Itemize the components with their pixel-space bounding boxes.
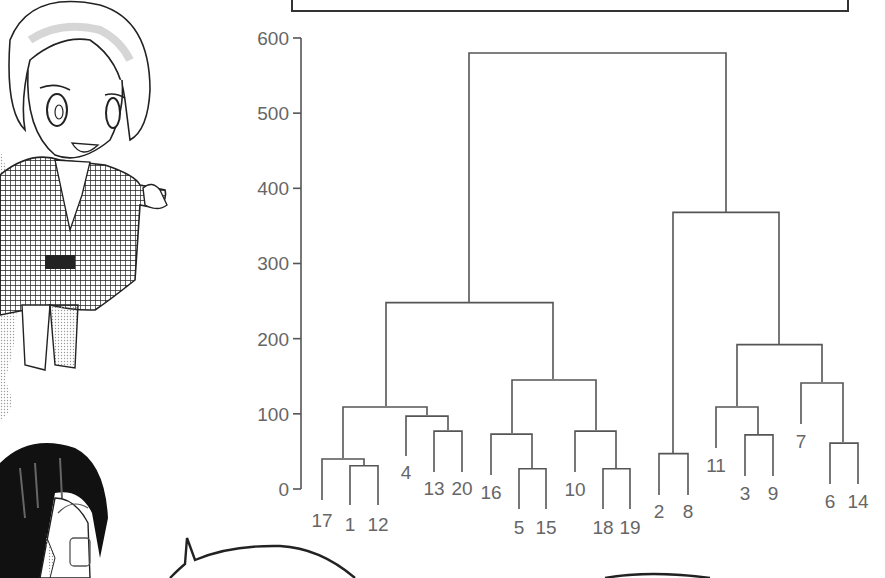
leaf-label: 4 — [401, 462, 412, 483]
leaf-label: 9 — [768, 483, 779, 504]
leaf-label: 5 — [514, 517, 525, 538]
dendrogram-link — [575, 431, 616, 472]
leaf-label: 12 — [367, 514, 388, 535]
leaf-label: 15 — [535, 517, 556, 538]
leaf-labels: 1711241320165151018192811397614 — [311, 431, 869, 538]
leaf-label: 19 — [619, 517, 640, 538]
manga-page: 0100200300400500600 17112413201651510181… — [0, 0, 885, 578]
y-axis: 0100200300400500600 — [257, 28, 301, 500]
dendrogram-branches — [322, 53, 858, 509]
leaf-label: 14 — [847, 491, 869, 512]
dendrogram-link — [801, 383, 843, 442]
dendrogram-link — [603, 469, 630, 509]
dendrogram-link — [716, 407, 758, 448]
dendrogram-link — [386, 303, 553, 406]
dendrogram-link — [659, 454, 688, 495]
y-tick-label: 100 — [257, 404, 289, 425]
y-tick-label: 600 — [257, 28, 289, 49]
leaf-label: 11 — [706, 455, 726, 476]
leaf-label: 7 — [796, 431, 807, 452]
dendrogram-link — [434, 431, 462, 472]
leaf-label: 10 — [564, 479, 585, 500]
y-tick-label: 400 — [257, 178, 289, 199]
dendrogram-link — [673, 212, 779, 453]
y-tick-label: 300 — [257, 253, 289, 274]
leaf-label: 6 — [825, 491, 836, 512]
dendrogram-link — [519, 469, 546, 509]
dendrogram-chart: 0100200300400500600 17112413201651510181… — [0, 0, 885, 578]
leaf-label: 2 — [654, 501, 665, 522]
leaf-label: 16 — [480, 482, 501, 503]
y-tick-label: 0 — [278, 479, 289, 500]
leaf-label: 20 — [451, 478, 472, 499]
leaf-label: 3 — [740, 483, 751, 504]
dendrogram-link — [406, 416, 448, 456]
dendrogram-link — [343, 407, 427, 458]
dendrogram-link — [830, 443, 858, 484]
leaf-label: 13 — [423, 478, 444, 499]
dendrogram-link — [745, 435, 773, 476]
leaf-label: 1 — [345, 514, 356, 535]
dendrogram-link — [350, 466, 378, 505]
dendrogram-link — [469, 53, 726, 302]
y-tick-label: 500 — [257, 103, 289, 124]
leaf-label: 8 — [683, 501, 694, 522]
leaf-label: 18 — [592, 517, 613, 538]
leaf-label: 17 — [311, 510, 332, 531]
dendrogram-link — [737, 345, 822, 406]
y-tick-label: 200 — [257, 329, 289, 350]
dendrogram-link — [512, 380, 596, 433]
